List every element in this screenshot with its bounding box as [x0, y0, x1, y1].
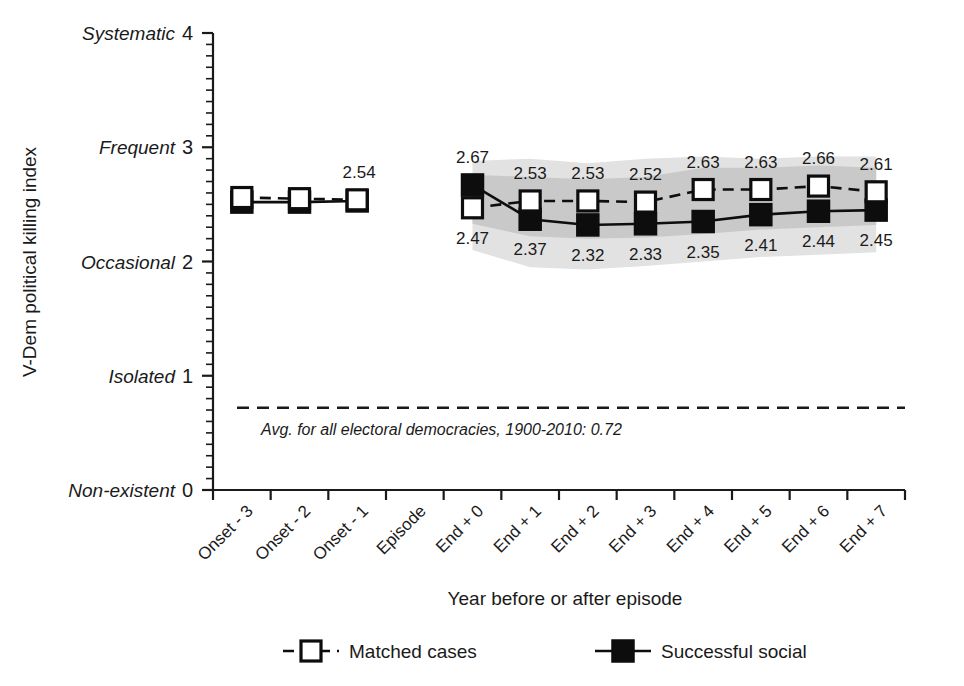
- y-tick-category-isolated: Isolated: [108, 366, 176, 387]
- data-label: 2.67: [456, 148, 489, 167]
- y-tick-category-occasional: Occasional: [81, 252, 176, 273]
- x-tick-label-onset-3: Onset - 3: [194, 501, 257, 564]
- data-label: 2.66: [802, 149, 835, 168]
- x-tick-label-end-5: End + 5: [720, 501, 775, 556]
- x-tick-label-end-4: End + 4: [663, 501, 718, 556]
- data-point-marker: [636, 192, 656, 212]
- x-axis-ticks: [213, 490, 905, 500]
- data-point-marker: [635, 213, 657, 235]
- y-axis-tick-labels: 0Non-existent1Isolated2Occasional3Freque…: [68, 22, 193, 501]
- x-tick-label-end-2: End + 2: [547, 501, 602, 556]
- data-point-marker: [290, 189, 310, 209]
- y-tick-category-frequent: Frequent: [99, 137, 176, 158]
- data-label: 2.35: [687, 243, 720, 262]
- data-label: 2.61: [860, 155, 893, 174]
- data-point-marker: [693, 180, 713, 200]
- y-tick-category-systematic: Systematic: [82, 23, 175, 44]
- y-tick-value-2: 2: [182, 251, 193, 273]
- legend-marker-sample: [301, 641, 321, 661]
- data-point-marker: [347, 190, 367, 210]
- political-killing-index-line-chart: 0Non-existent1Isolated2Occasional3Freque…: [0, 0, 964, 686]
- x-tick-label-episode: Episode: [373, 501, 430, 558]
- data-point-marker: [520, 191, 540, 211]
- y-tick-category-non-existent: Non-existent: [68, 480, 175, 501]
- chart-legend: Matched casesSuccessful social: [283, 640, 807, 662]
- legend-item-matched-cases[interactable]: Matched cases: [283, 641, 477, 662]
- data-label: 2.45: [860, 231, 893, 250]
- x-tick-label-end-3: End + 3: [605, 501, 660, 556]
- data-label: 2.37: [514, 240, 547, 259]
- legend-label: Matched cases: [349, 641, 477, 662]
- data-label: 2.52: [629, 165, 662, 184]
- data-label: 2.63: [687, 153, 720, 172]
- data-point-marker: [866, 182, 886, 202]
- y-tick-value-3: 3: [182, 136, 193, 158]
- data-label: 2.44: [802, 232, 835, 251]
- y-tick-value-1: 1: [182, 365, 193, 387]
- legend-item-successful-social[interactable]: Successful social: [595, 640, 807, 662]
- data-point-marker: [462, 174, 484, 196]
- chart-figure: 0Non-existent1Isolated2Occasional3Freque…: [0, 0, 964, 686]
- data-point-marker: [750, 204, 772, 226]
- y-tick-value-4: 4: [182, 22, 193, 44]
- x-tick-label-end-1: End + 1: [490, 501, 545, 556]
- legend-marker-sample: [612, 640, 634, 662]
- reference-line-note: Avg. for all electoral democracies, 1900…: [260, 421, 622, 438]
- data-point-marker: [463, 198, 483, 218]
- data-point-marker: [577, 214, 599, 236]
- x-axis-title: Year before or after episode: [448, 588, 683, 609]
- x-tick-label-end-0: End + 0: [432, 501, 487, 556]
- x-axis-tick-labels: Onset - 3Onset - 2Onset - 1EpisodeEnd + …: [194, 501, 891, 564]
- data-label: 2.41: [744, 236, 777, 255]
- data-point-marker: [232, 188, 252, 208]
- y-tick-value-0: 0: [182, 479, 193, 501]
- data-label: 2.53: [571, 164, 604, 183]
- reference-line-group: Avg. for all electoral democracies, 1900…: [237, 408, 905, 438]
- data-point-marker: [692, 211, 714, 233]
- data-point-marker: [578, 191, 598, 211]
- x-tick-label-onset-1: Onset - 1: [309, 501, 372, 564]
- data-label: 2.54: [343, 163, 376, 182]
- legend-label: Successful social: [661, 641, 807, 662]
- data-point-marker: [751, 180, 771, 200]
- y-axis-ticks: [202, 33, 213, 490]
- data-point-marker: [809, 176, 829, 196]
- x-tick-label-end-6: End + 6: [778, 501, 833, 556]
- x-tick-label-end-7: End + 7: [836, 501, 891, 556]
- data-label: 2.32: [571, 246, 604, 265]
- data-label: 2.33: [629, 245, 662, 264]
- y-axis-title: V-Dem political killing index: [19, 146, 40, 377]
- data-label: 2.47: [456, 229, 489, 248]
- data-label: 2.63: [744, 153, 777, 172]
- data-point-marker: [808, 200, 830, 222]
- x-tick-label-onset-2: Onset - 2: [251, 501, 314, 564]
- data-label: 2.53: [514, 164, 547, 183]
